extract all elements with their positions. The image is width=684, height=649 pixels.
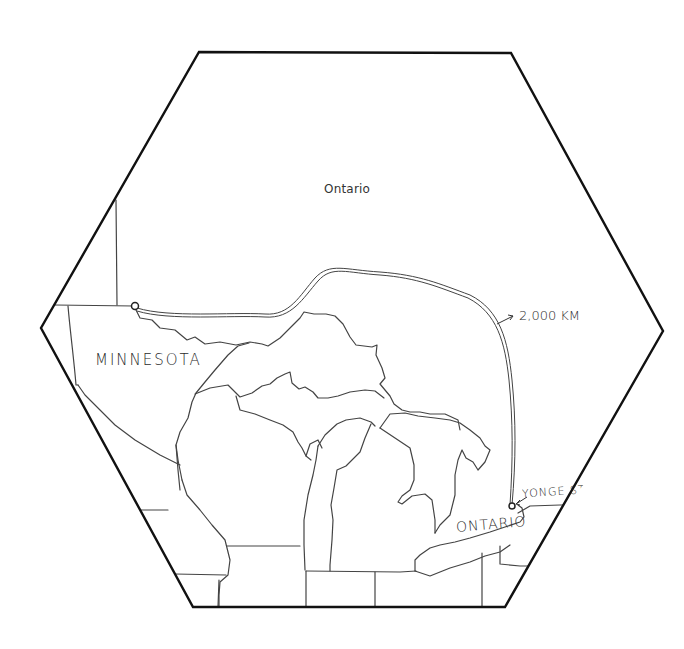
lake-michigan-north [318, 418, 375, 446]
lake-huron-east [380, 413, 490, 533]
hexagon-frame [41, 52, 663, 607]
label-distance: 2,000 KM [519, 308, 580, 323]
border-canada-us-west [55, 305, 134, 306]
lake-michigan-west [304, 446, 318, 570]
lake-michigan-east [330, 424, 371, 571]
label-region-ontario: Ontario [324, 182, 370, 196]
ontario-south [415, 545, 510, 576]
border-manitoba-ontario [116, 200, 117, 305]
lake-superior-south [195, 372, 384, 398]
route-start-marker-icon[interactable] [132, 303, 139, 310]
map-canvas: Ontario MINNESOTA 2,000 KM ONTARIO YONGE… [0, 0, 684, 649]
lake-huron-west [380, 428, 435, 533]
distance-arrow-icon [497, 315, 513, 324]
mississippi-river [182, 480, 230, 607]
route-end-marker-icon[interactable] [509, 503, 515, 509]
upper-peninsula-south [236, 396, 311, 460]
border-michigan-indiana [306, 571, 416, 572]
map-svg [0, 0, 684, 649]
route-line [137, 268, 515, 505]
border-iowa-mo [175, 574, 226, 575]
label-minnesota: MINNESOTA [95, 351, 202, 369]
border-minnesota-west [68, 306, 78, 385]
